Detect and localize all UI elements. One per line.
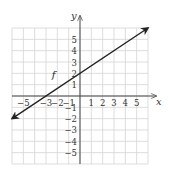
x-tick-label: 3: [111, 98, 116, 108]
y-axis-label: y: [70, 10, 77, 21]
axes: [12, 16, 156, 164]
y-tick-label: 3: [72, 58, 77, 68]
function-label: f: [51, 69, 58, 80]
function-graph: −5−3−2−11234554321−1−2−3−4−5 xyf: [0, 0, 169, 177]
y-tick-label: −1: [64, 103, 77, 113]
x-tick-label: 1: [89, 98, 94, 108]
y-tick-label: −2: [64, 114, 77, 124]
y-tick-label: −3: [64, 125, 77, 135]
y-tick-label: 1: [72, 80, 77, 90]
y-tick-label: 5: [72, 35, 77, 45]
x-axis-label: x: [156, 96, 162, 107]
x-tick-label: 5: [134, 98, 139, 108]
y-tick-label: −5: [64, 148, 77, 158]
x-tick-label: 2: [100, 98, 105, 108]
axis-labels: xyf: [51, 10, 162, 107]
x-tick-label: 4: [123, 98, 128, 108]
y-tick-label: 4: [72, 46, 77, 56]
y-tick-label: −4: [64, 137, 77, 147]
x-tick-label: −5: [17, 98, 30, 108]
